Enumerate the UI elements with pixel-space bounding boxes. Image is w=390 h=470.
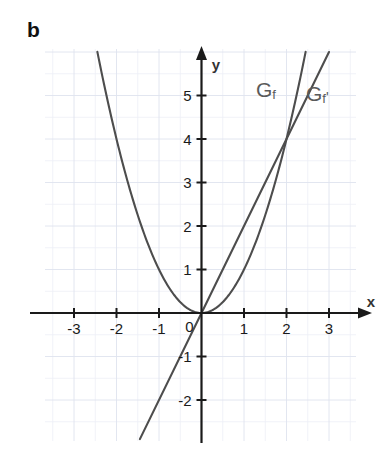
tick-label: 4 <box>183 131 191 148</box>
tick-label: 2 <box>183 218 191 235</box>
tick-label: -1 <box>178 348 191 365</box>
tick-label: -2 <box>110 320 123 337</box>
tick-label: 5 <box>183 87 191 104</box>
x-axis-title: x <box>367 293 376 310</box>
graph-figure: -3-2-10123-2-112345 x y <box>0 0 390 470</box>
tick-label: 2 <box>282 320 290 337</box>
tick-label: 3 <box>325 320 333 337</box>
gf-subscript: f <box>272 87 276 102</box>
tick-label: -3 <box>67 320 80 337</box>
curve-label-gf-prime: Gf' <box>306 82 330 106</box>
gf-base: G <box>256 78 272 101</box>
gfprime-prime-mark: ' <box>326 89 330 105</box>
tick-label: -2 <box>178 392 191 409</box>
tick-label: 1 <box>240 320 248 337</box>
gfprime-base: G <box>306 82 322 105</box>
tick-label: 0 <box>185 318 193 335</box>
tick-label: -1 <box>152 320 165 337</box>
y-axis-title: y <box>212 56 221 73</box>
tick-label: 1 <box>183 261 191 278</box>
curve-label-gf: Gf <box>256 78 276 102</box>
figure-background <box>0 0 390 470</box>
panel-letter-b: b <box>27 18 40 42</box>
tick-label: 3 <box>183 174 191 191</box>
